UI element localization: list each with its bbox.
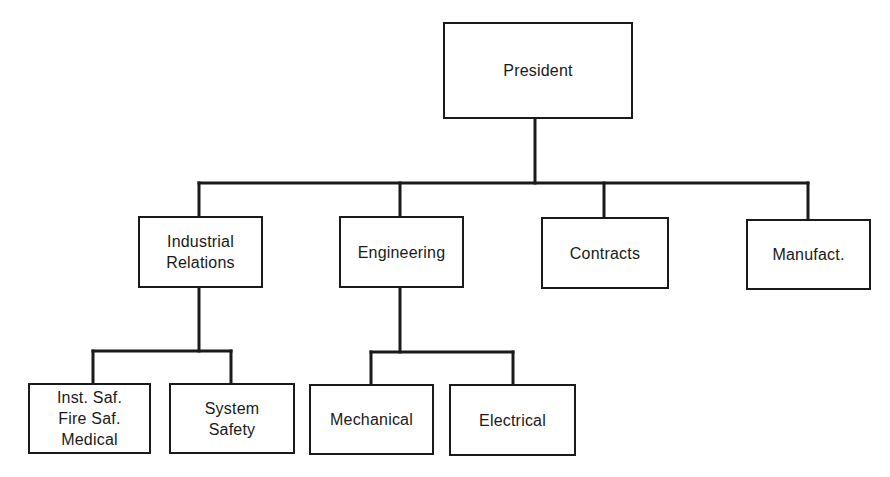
- node-mechanical: Mechanical: [309, 384, 434, 455]
- org-chart: President Industrial Relations Engineeri…: [0, 0, 890, 477]
- node-label: Industrial Relations: [166, 231, 235, 273]
- node-system-safety: System Safety: [169, 383, 295, 454]
- node-label: Engineering: [358, 242, 446, 263]
- node-label: Mechanical: [330, 409, 413, 430]
- node-label: President: [503, 60, 572, 81]
- node-president: President: [443, 22, 633, 119]
- node-label: Inst. Saf. Fire Saf. Medical: [57, 387, 122, 450]
- node-manufacturing: Manufact.: [746, 219, 871, 290]
- node-industrial-relations: Industrial Relations: [138, 216, 263, 288]
- node-label: Manufact.: [772, 244, 844, 265]
- node-label: Electrical: [479, 410, 546, 431]
- node-engineering: Engineering: [339, 216, 464, 288]
- node-label: System Safety: [205, 398, 260, 440]
- node-inst-fire-medical: Inst. Saf. Fire Saf. Medical: [28, 383, 151, 454]
- node-label: Contracts: [570, 243, 640, 264]
- node-electrical: Electrical: [449, 384, 576, 456]
- node-contracts: Contracts: [541, 217, 669, 289]
